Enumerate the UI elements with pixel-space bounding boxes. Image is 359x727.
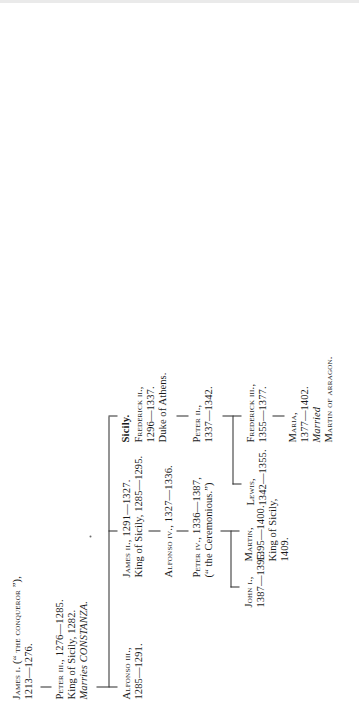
node-peter-iv: PETER IV., 1336—1387, (“ the Ceremonious… xyxy=(190,476,214,577)
node-frederick-iii: FREDERICK III., 1355—1377. xyxy=(244,383,268,442)
frederick-ii-title: Duke of Athens. xyxy=(156,372,168,442)
connector-james-ii-to-alfonso-iv xyxy=(148,530,160,531)
connector-to-john-i xyxy=(230,586,239,587)
connector-alfonso-iv-to-peter-iv xyxy=(176,530,188,531)
connector-peter-iv-stem xyxy=(220,530,230,531)
maria-spouse: MARTIN of Arragon. xyxy=(322,356,334,442)
sibling-bus-aragon xyxy=(230,530,231,587)
martin-title: King of Sicily, xyxy=(266,498,278,561)
peter-iv-name: PETER IV., 1336—1387, xyxy=(190,476,202,577)
frederick-ii-name: FREDERICK II., xyxy=(132,372,144,442)
peter-iii-marriage: Marries CONSTANZA. xyxy=(77,599,89,699)
node-peter-iii: PETER III., 1276—1285. King of Sicily, 1… xyxy=(53,599,89,699)
node-martin: MARTIN, 1395—1400. King of Sicily, 1409. xyxy=(242,498,290,561)
node-frederick-ii: FREDERICK II., 1296—1337. Duke of Athens… xyxy=(132,372,168,442)
peter-iv-epithet: (“ the Ceremonious.”) xyxy=(202,476,214,577)
sicily-heading-label: Sicily. xyxy=(119,414,131,442)
martin-dates: 1395—1400. xyxy=(254,498,266,561)
maria-dates: 1377—1402. xyxy=(298,356,310,442)
connector-peter-ii-stem xyxy=(222,415,232,416)
genealogy-plate: JAMES I. (“ the Conqueror ”), 1213—1276.… xyxy=(0,0,359,727)
node-james-ii: JAMES II., 1291—1327. King of Sicily, 12… xyxy=(120,455,144,577)
maria-married-label: Married xyxy=(310,356,322,442)
alfonso-iv-name: ALFONSO IV., 1327—1336. xyxy=(162,465,174,577)
frederick-iii-dates: 1355—1377. xyxy=(256,383,268,442)
james-i-dates: 1213—1276. xyxy=(22,575,34,699)
frederick-ii-dates: 1296—1337. xyxy=(144,372,156,442)
martin-name: MARTIN, xyxy=(242,498,254,561)
node-peter-ii: PETER II., 1337—1342. xyxy=(190,386,214,442)
alfonso-iii-dates: 1285—1291. xyxy=(132,643,144,699)
sibling-bus-generation-3 xyxy=(108,416,109,687)
node-james-i: JAMES I. (“ the Conqueror ”), 1213—1276. xyxy=(10,575,34,699)
node-alfonso-iv: ALFONSO IV., 1327—1336. xyxy=(162,465,174,577)
sibling-bus-sicily xyxy=(232,415,233,484)
connector-to-frederick-ii xyxy=(108,415,117,416)
lewis-name: LEWIS, xyxy=(244,449,256,505)
connector-to-martin xyxy=(230,530,239,531)
lewis-dates: 1342—1355. xyxy=(256,449,268,505)
connector-frederick-ii-to-peter-ii xyxy=(176,415,188,416)
node-alfonso-iii: ALFONSO III., 1285—1291. xyxy=(120,643,144,699)
james-ii-name: JAMES II., 1291—1327. xyxy=(120,455,132,577)
connector-to-alfonso-iii xyxy=(108,686,117,687)
martin-year: 1409. xyxy=(278,498,290,561)
peter-ii-name: PETER II., xyxy=(190,386,202,442)
connector-to-lewis xyxy=(232,483,241,484)
node-lewis: LEWIS, 1342—1355. xyxy=(244,449,268,505)
alfonso-iii-name: ALFONSO III., xyxy=(120,643,132,699)
genealogy-tree-canvas: JAMES I. (“ the Conqueror ”), 1213—1276.… xyxy=(0,0,359,727)
node-maria: MARIA, 1377—1402. Married MARTIN of Arra… xyxy=(286,356,334,442)
connector-james-to-peter xyxy=(40,686,51,687)
peter-iii-name: PETER III., 1276—1285. xyxy=(53,599,65,699)
node-sicily-heading: Sicily. xyxy=(119,414,131,442)
peter-ii-dates: 1337—1342. xyxy=(202,386,214,442)
maria-name: MARIA, xyxy=(286,356,298,442)
connector-frederick-iii-to-maria xyxy=(272,415,284,416)
scan-speck xyxy=(89,535,91,537)
james-ii-title: King of Sicily, 1285—1295. xyxy=(132,455,144,577)
frederick-iii-name: FREDERICK III., xyxy=(244,383,256,442)
peter-iii-title: King of Sicily, 1282. xyxy=(65,599,77,699)
connector-to-james-ii xyxy=(108,530,117,531)
connector-to-frederick-iii xyxy=(232,415,241,416)
james-i-name: JAMES I. (“ the Conqueror ”), xyxy=(10,575,22,699)
connector-peter-iii-stem xyxy=(96,686,108,687)
scan-edge-shadow xyxy=(0,0,359,3)
